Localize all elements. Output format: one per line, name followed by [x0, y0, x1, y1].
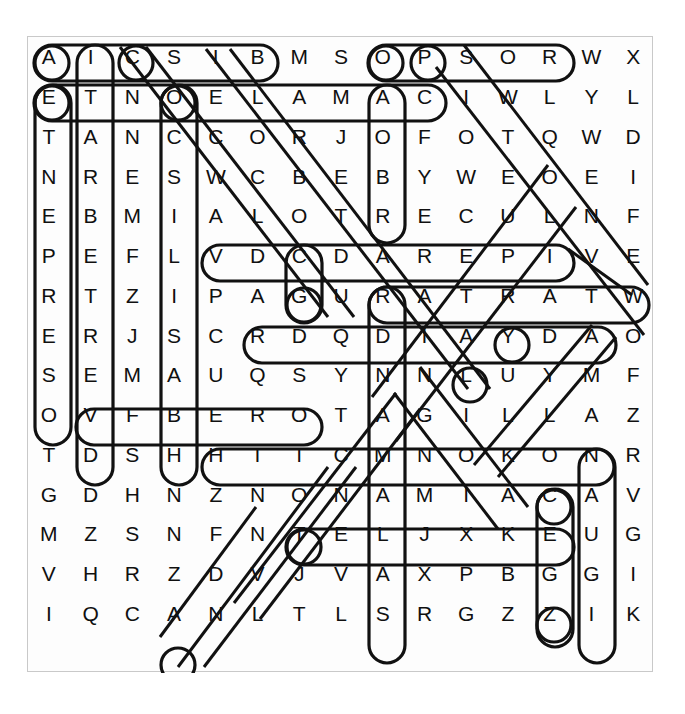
grid-letter[interactable]: E — [571, 156, 613, 196]
grid-letter[interactable]: E — [111, 156, 153, 196]
grid-letter[interactable]: H — [153, 435, 195, 475]
grid-letter[interactable]: A — [362, 474, 404, 514]
grid-letter[interactable]: X — [612, 37, 654, 77]
grid-letter[interactable]: G — [529, 554, 571, 594]
grid-letter[interactable]: H — [70, 554, 112, 594]
grid-letter[interactable]: G — [571, 554, 613, 594]
grid-letter[interactable]: G — [445, 594, 487, 634]
grid-letter[interactable]: N — [153, 514, 195, 554]
grid-letter[interactable]: I — [195, 37, 237, 77]
grid-letter[interactable]: O — [28, 395, 70, 435]
grid-letter[interactable]: R — [237, 315, 279, 355]
grid-letter[interactable]: T — [70, 276, 112, 316]
grid-letter[interactable]: H — [195, 435, 237, 475]
grid-letter[interactable]: W — [571, 37, 613, 77]
grid-letter[interactable]: T — [571, 276, 613, 316]
grid-letter[interactable]: I — [612, 554, 654, 594]
grid-letter[interactable]: S — [153, 156, 195, 196]
grid-letter[interactable]: M — [278, 37, 320, 77]
grid-letter[interactable]: Q — [320, 315, 362, 355]
grid-letter[interactable]: S — [445, 37, 487, 77]
grid-letter[interactable]: A — [445, 315, 487, 355]
grid-letter[interactable]: S — [320, 37, 362, 77]
grid-letter[interactable]: Y — [529, 355, 571, 395]
grid-letter[interactable]: Q — [70, 594, 112, 634]
grid-letter[interactable]: M — [362, 435, 404, 475]
grid-letter[interactable]: J — [278, 554, 320, 594]
grid-letter[interactable]: N — [571, 196, 613, 236]
grid-letter[interactable]: Z — [612, 395, 654, 435]
grid-letter[interactable]: C — [445, 196, 487, 236]
grid-letter[interactable]: L — [362, 514, 404, 554]
grid-letter[interactable]: K — [487, 435, 529, 475]
grid-letter[interactable]: B — [153, 395, 195, 435]
grid-letter[interactable]: R — [70, 156, 112, 196]
grid-letter[interactable]: E — [320, 156, 362, 196]
grid-letter[interactable]: E — [320, 514, 362, 554]
grid-letter[interactable]: G — [28, 474, 70, 514]
grid-letter[interactable]: L — [612, 77, 654, 117]
grid-letter[interactable]: Y — [487, 315, 529, 355]
grid-letter[interactable]: E — [70, 355, 112, 395]
grid-letter[interactable]: A — [278, 77, 320, 117]
grid-letter[interactable]: M — [404, 474, 446, 514]
grid-letter[interactable]: W — [571, 117, 613, 157]
grid-letter[interactable]: N — [571, 435, 613, 475]
grid-letter[interactable]: Z — [529, 594, 571, 634]
grid-letter[interactable]: D — [612, 117, 654, 157]
grid-letter[interactable]: F — [195, 514, 237, 554]
grid-letter[interactable]: C — [529, 474, 571, 514]
grid-letter[interactable]: T — [320, 395, 362, 435]
grid-letter[interactable]: Y — [404, 156, 446, 196]
grid-letter[interactable]: U — [487, 196, 529, 236]
grid-letter[interactable]: I — [278, 435, 320, 475]
grid-letter[interactable]: L — [529, 395, 571, 435]
grid-letter[interactable]: U — [487, 355, 529, 395]
grid-letter[interactable]: O — [612, 315, 654, 355]
grid-letter[interactable]: R — [237, 395, 279, 435]
grid-letter[interactable]: I — [70, 37, 112, 77]
grid-letter[interactable]: R — [612, 435, 654, 475]
grid-letter[interactable]: V — [28, 554, 70, 594]
grid-letter[interactable]: N — [404, 435, 446, 475]
grid-letter[interactable]: E — [404, 196, 446, 236]
grid-letter[interactable]: T — [28, 117, 70, 157]
grid-letter[interactable]: M — [28, 514, 70, 554]
grid-letter[interactable]: N — [111, 77, 153, 117]
grid-letter[interactable]: L — [529, 77, 571, 117]
grid-letter[interactable]: O — [445, 435, 487, 475]
grid-letter[interactable]: E — [445, 236, 487, 276]
grid-letter[interactable]: C — [111, 594, 153, 634]
grid-letter[interactable]: G — [612, 514, 654, 554]
grid-letter[interactable]: T — [445, 276, 487, 316]
grid-letter[interactable]: E — [529, 514, 571, 554]
grid-letter[interactable]: L — [237, 196, 279, 236]
grid-letter[interactable]: Y — [320, 355, 362, 395]
grid-letter[interactable]: B — [278, 156, 320, 196]
grid-letter[interactable]: I — [529, 236, 571, 276]
grid-letter[interactable]: Z — [195, 474, 237, 514]
grid-letter[interactable]: O — [278, 196, 320, 236]
grid-letter[interactable]: A — [571, 315, 613, 355]
grid-letter[interactable]: C — [111, 37, 153, 77]
grid-letter[interactable]: S — [153, 315, 195, 355]
grid-letter[interactable]: N — [111, 117, 153, 157]
grid-letter[interactable]: M — [320, 77, 362, 117]
grid-letter[interactable]: R — [278, 117, 320, 157]
grid-letter[interactable]: X — [404, 554, 446, 594]
grid-letter[interactable]: W — [612, 276, 654, 316]
grid-letter[interactable]: O — [278, 395, 320, 435]
grid-letter[interactable]: R — [70, 315, 112, 355]
grid-letter[interactable]: C — [404, 77, 446, 117]
grid-letter[interactable]: F — [612, 355, 654, 395]
grid-letter[interactable]: T — [70, 77, 112, 117]
grid-letter[interactable]: A — [362, 395, 404, 435]
grid-letter[interactable]: A — [571, 395, 613, 435]
grid-letter[interactable]: T — [28, 435, 70, 475]
grid-letter[interactable]: D — [195, 554, 237, 594]
grid-letter[interactable]: G — [404, 395, 446, 435]
grid-letter[interactable]: D — [278, 315, 320, 355]
grid-letter[interactable]: F — [111, 236, 153, 276]
grid-letter[interactable]: T — [278, 594, 320, 634]
grid-letter[interactable]: N — [195, 594, 237, 634]
